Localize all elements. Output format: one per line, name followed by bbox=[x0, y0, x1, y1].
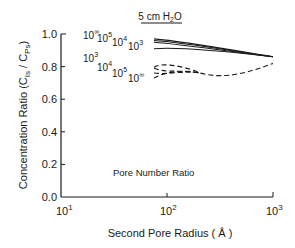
svg-text:105: 105 bbox=[97, 31, 112, 44]
svg-text:104: 104 bbox=[97, 60, 112, 73]
dashed-curve-labels: 103 104 105 10∞ bbox=[83, 51, 144, 84]
x-tick-labels: 101 102 103 bbox=[56, 203, 283, 217]
svg-text:0.2: 0.2 bbox=[42, 158, 57, 170]
chart: 1.0 0.8 0.6 0.4 0.2 0.0 101 102 103 Seco… bbox=[0, 0, 295, 248]
y-axis-label: Concentration Ratio (CIs / CPs) bbox=[17, 41, 32, 189]
pressure-annotation: 5 cm H2O bbox=[138, 11, 182, 23]
svg-text:103: 103 bbox=[266, 203, 283, 217]
y-ticks bbox=[61, 34, 66, 164]
svg-text:10∞: 10∞ bbox=[128, 71, 144, 84]
svg-text:101: 101 bbox=[56, 203, 73, 217]
svg-text:103: 103 bbox=[83, 51, 98, 64]
y-tick-labels: 1.0 0.8 0.6 0.4 0.2 0.0 bbox=[42, 28, 57, 203]
solid-curves bbox=[154, 39, 273, 57]
svg-text:0.8: 0.8 bbox=[42, 61, 57, 73]
solid-curve-labels: 10∞ 105 104 103 bbox=[83, 28, 143, 52]
svg-text:0.6: 0.6 bbox=[42, 93, 57, 105]
svg-text:104: 104 bbox=[112, 35, 127, 48]
svg-text:1.0: 1.0 bbox=[42, 28, 57, 40]
svg-text:0.4: 0.4 bbox=[42, 126, 57, 138]
svg-text:102: 102 bbox=[160, 203, 177, 217]
dashed-curves bbox=[154, 63, 273, 78]
svg-text:0.0: 0.0 bbox=[42, 191, 57, 203]
pore-number-ratio-label: Pore Number Ratio bbox=[113, 167, 194, 178]
svg-text:103: 103 bbox=[128, 39, 143, 52]
x-axis-label: Second Pore Radius ( Å ) bbox=[108, 227, 233, 239]
svg-text:105: 105 bbox=[112, 66, 127, 79]
x-ticks bbox=[167, 192, 273, 197]
